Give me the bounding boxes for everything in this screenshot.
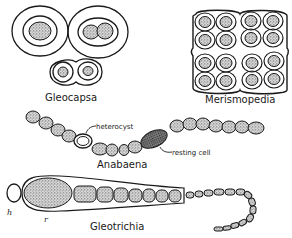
gleocapsa-group [12, 6, 128, 85]
gleotrichia-label: Gleotrichia [90, 221, 144, 232]
heterocyst-label: heterocyst [96, 123, 133, 131]
resting-cell-label: resting cell [172, 149, 211, 157]
resting-cell-pointer [160, 147, 172, 152]
cyanobacteria-diagram: Gleocapsa [0, 0, 292, 238]
gleocapsa-label: Gleocapsa [45, 92, 97, 103]
heterocyst-pointer [86, 126, 96, 133]
h-label: h [7, 208, 12, 217]
anabaena-label: Anabaena [97, 159, 147, 170]
merismopedia-label: Merismopedia [205, 94, 276, 105]
anabaena-filament [26, 111, 264, 156]
merismopedia-group [192, 10, 289, 94]
r-label: r [44, 215, 49, 224]
